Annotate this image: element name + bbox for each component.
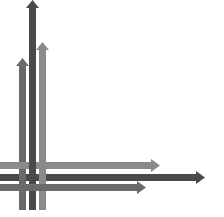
horizontal-arrows [0,159,205,194]
weave-overlap [39,174,46,181]
arrows-graphic [0,0,224,217]
weave-overlap [29,162,36,169]
weave-overlap [19,174,26,181]
